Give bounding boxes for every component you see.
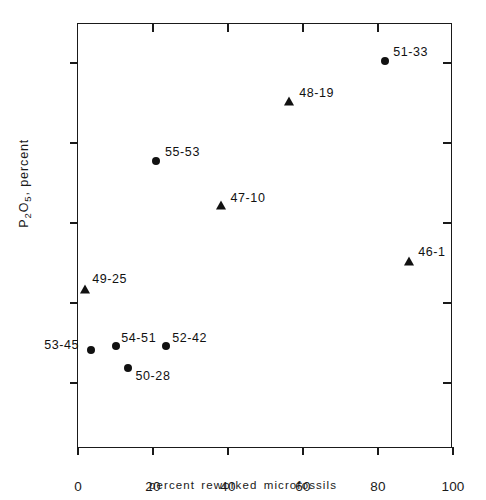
x-tick-bottom bbox=[152, 447, 154, 455]
data-point-50-28[interactable] bbox=[124, 364, 132, 372]
data-point-label-54-51: 54-51 bbox=[121, 331, 156, 345]
data-point-label-49-25: 49-25 bbox=[92, 272, 127, 286]
y-axis-title-text: P2O5, percent bbox=[17, 139, 31, 228]
x-tick-bottom bbox=[452, 447, 454, 455]
data-point-48-19[interactable] bbox=[284, 97, 294, 106]
data-point-label-48-19: 48-19 bbox=[299, 86, 334, 100]
y-axis-title: P2O5, percent bbox=[17, 93, 34, 273]
x-tick-top bbox=[377, 24, 379, 32]
data-point-53-45[interactable] bbox=[87, 346, 95, 354]
x-tick-bottom bbox=[377, 447, 379, 455]
y-tick-right bbox=[443, 302, 451, 304]
x-tick-top bbox=[152, 24, 154, 32]
x-tick-top bbox=[227, 24, 229, 32]
data-point-label-51-33: 51-33 bbox=[393, 45, 428, 59]
data-point-55-53[interactable] bbox=[152, 157, 160, 165]
data-point-47-10[interactable] bbox=[216, 201, 226, 210]
y-tick-left bbox=[70, 382, 78, 384]
data-point-52-42[interactable] bbox=[162, 342, 170, 350]
data-point-46-1[interactable] bbox=[404, 257, 414, 266]
y-tick-left bbox=[70, 302, 78, 304]
y-tick-right bbox=[443, 222, 451, 224]
x-tick-top bbox=[302, 24, 304, 32]
data-point-51-33[interactable] bbox=[381, 57, 389, 65]
data-point-label-52-42: 52-42 bbox=[172, 331, 207, 345]
x-tick-bottom bbox=[77, 447, 79, 455]
y-tick-left bbox=[70, 142, 78, 144]
y-tick-right bbox=[443, 142, 451, 144]
y-tick-left bbox=[70, 222, 78, 224]
x-tick-bottom bbox=[302, 447, 304, 455]
data-point-label-53-45: 53-45 bbox=[44, 338, 79, 352]
y-tick-right bbox=[443, 62, 451, 64]
data-point-label-46-1: 46-1 bbox=[418, 245, 445, 259]
x-axis-title: percent reworked microfossils bbox=[0, 479, 486, 491]
data-point-label-55-53: 55-53 bbox=[165, 145, 200, 159]
y-tick-right bbox=[443, 382, 451, 384]
scatter-plot-figure: 0204060801000.20.40.60.81.051-3348-1955-… bbox=[0, 0, 486, 500]
data-point-54-51[interactable] bbox=[112, 342, 120, 350]
data-point-label-47-10: 47-10 bbox=[231, 191, 266, 205]
x-tick-bottom bbox=[227, 447, 229, 455]
data-point-label-50-28: 50-28 bbox=[136, 369, 171, 383]
y-tick-left bbox=[70, 62, 78, 64]
plot-frame: 0204060801000.20.40.60.81.051-3348-1955-… bbox=[77, 23, 452, 448]
data-point-49-25[interactable] bbox=[80, 285, 90, 294]
